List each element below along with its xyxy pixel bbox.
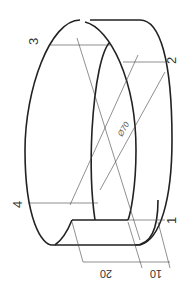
- dim-ext-3: [158, 222, 170, 268]
- notch-edge: [55, 220, 128, 245]
- center-line-a: [77, 38, 140, 240]
- dim-10-label: 10: [150, 268, 162, 280]
- label-1: 1: [164, 217, 179, 224]
- inner-ring-edge: [85, 22, 136, 220]
- ring-drawing: 3 2 4 1 Ø70 20 10: [0, 0, 196, 290]
- label-4: 4: [10, 201, 25, 208]
- dim-ext-1: [72, 222, 83, 262]
- dim-20-label: 20: [100, 268, 112, 280]
- diameter-line: [100, 72, 165, 190]
- label-3: 3: [26, 38, 41, 45]
- label-2: 2: [164, 57, 179, 64]
- diameter-label: Ø70: [115, 120, 131, 139]
